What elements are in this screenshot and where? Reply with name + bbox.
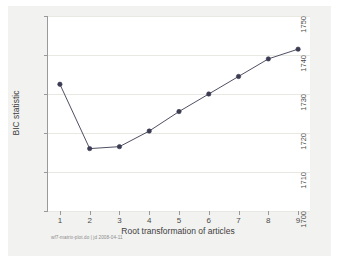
x-axis-tick xyxy=(268,211,269,215)
x-axis-tick-label: 7 xyxy=(236,216,240,225)
chart-footnote: wf7-matrix-plot.do | jd 2008-04-11 xyxy=(51,235,123,240)
data-point-marker xyxy=(177,109,181,113)
x-axis-tick xyxy=(298,211,299,215)
data-point-marker xyxy=(266,57,270,61)
chart-screenshot: 170017101720173017401750123456789 BIC st… xyxy=(0,0,339,263)
x-axis-tick xyxy=(119,211,120,215)
data-point-marker xyxy=(147,129,151,133)
data-point-marker xyxy=(117,144,121,148)
data-point-marker xyxy=(87,146,91,150)
x-axis-tick xyxy=(90,211,91,215)
data-point-marker xyxy=(207,92,211,96)
data-point-marker xyxy=(296,47,300,51)
x-axis-tick-label: 4 xyxy=(147,216,151,225)
x-axis-tick-label: 2 xyxy=(87,216,91,225)
x-axis-tick-label: 5 xyxy=(177,216,181,225)
series-line xyxy=(60,49,298,148)
x-axis-tick-label: 8 xyxy=(266,216,270,225)
line-series xyxy=(48,16,310,211)
plot-inner: 170017101720173017401750123456789 xyxy=(48,16,310,211)
x-axis-tick xyxy=(209,211,210,215)
x-axis-tick-label: 9 xyxy=(296,216,300,225)
x-axis-tick xyxy=(179,211,180,215)
x-axis-tick xyxy=(149,211,150,215)
x-axis-tick xyxy=(239,211,240,215)
x-axis-tick xyxy=(60,211,61,215)
y-axis-title: BIC statistic xyxy=(11,91,21,136)
data-point-marker xyxy=(58,82,62,86)
plot-area: 170017101720173017401750123456789 xyxy=(47,16,310,212)
y-axis-tick xyxy=(44,211,48,212)
x-axis-tick-label: 1 xyxy=(58,216,62,225)
x-axis-tick-label: 6 xyxy=(207,216,211,225)
x-axis-tick-label: 3 xyxy=(117,216,121,225)
data-point-marker xyxy=(236,74,240,78)
